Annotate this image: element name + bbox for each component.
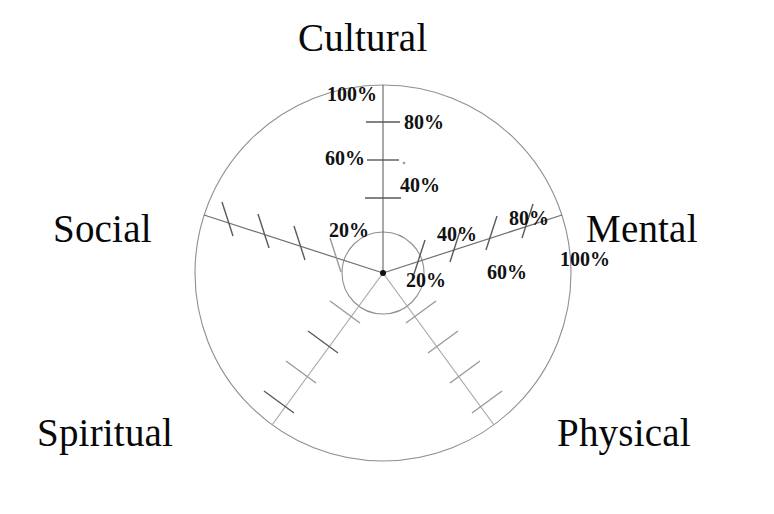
tickmark-spiritual-60 xyxy=(286,361,316,383)
tick-label-mental-100: 100% xyxy=(560,249,610,269)
tickmark-mental-60 xyxy=(486,216,497,250)
tickmark-physical-60 xyxy=(450,361,480,383)
tickmark-social-80 xyxy=(222,202,233,236)
tickmark-spiritual-20 xyxy=(330,301,360,323)
axis-label-mental: Mental xyxy=(586,209,698,248)
axis-label-spiritual: Spiritual xyxy=(37,413,173,452)
tick-label-cultural-20: 20% xyxy=(329,220,369,240)
tickmark-spiritual-40 xyxy=(308,331,338,353)
axis-label-physical: Physical xyxy=(557,413,691,452)
radar-chart: Cultural Mental Physical Spiritual Socia… xyxy=(0,0,774,514)
axis-label-cultural: Cultural xyxy=(298,18,427,57)
axis-line-physical xyxy=(383,273,494,425)
axis-line-spiritual xyxy=(272,273,383,425)
tick-label-cultural-80: 80% xyxy=(404,112,444,132)
tick-label-mental-80: 80% xyxy=(509,208,549,228)
tick-label-mental-40: 40% xyxy=(437,224,477,244)
tick-label-cultural-40: 40% xyxy=(400,175,440,195)
tickmark-physical-20 xyxy=(406,301,436,323)
tick-label-cultural-60: 60% xyxy=(325,148,365,168)
scan-speck xyxy=(403,162,406,165)
chart-center-point xyxy=(380,270,386,276)
axis-label-social: Social xyxy=(53,209,152,248)
tick-label-mental-20: 20% xyxy=(406,270,446,290)
tickmark-physical-40 xyxy=(428,331,458,353)
tickmark-social-40 xyxy=(294,226,305,260)
tick-label-cultural-100: 100% xyxy=(327,84,377,104)
tickmark-social-20 xyxy=(330,238,341,272)
tick-label-mental-60: 60% xyxy=(487,262,527,282)
tickmark-social-60 xyxy=(258,214,269,248)
